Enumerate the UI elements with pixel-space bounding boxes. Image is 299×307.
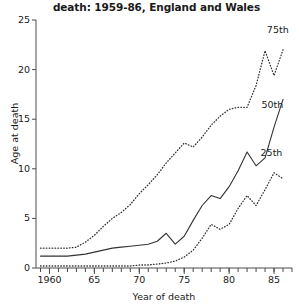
plot-area	[0, 0, 299, 307]
series-line-25th	[40, 173, 283, 266]
x-tick-label: 80	[223, 275, 235, 285]
axes	[32, 20, 292, 274]
y-tick-label: 5	[8, 213, 30, 223]
x-tick-label: 75	[178, 275, 190, 285]
y-tick-label: 0	[8, 263, 30, 273]
x-tick-label: 85	[268, 275, 280, 285]
series-label-75th: 75th	[267, 25, 289, 35]
y-tick-label: 10	[8, 164, 30, 174]
series-label-25th: 25th	[261, 148, 283, 158]
x-tick-label: 70	[133, 275, 145, 285]
y-tick-label: 15	[8, 114, 30, 124]
series-line-50th	[40, 99, 283, 256]
y-tick-label: 20	[8, 65, 30, 75]
x-tick-label: 1960	[37, 275, 61, 285]
x-tick-label: 65	[88, 275, 100, 285]
chart-container: death: 1959-86, England and Wales Age at…	[0, 0, 299, 307]
series-line-75th	[40, 50, 283, 248]
y-tick-label: 25	[8, 15, 30, 25]
series-label-50th: 50th	[261, 100, 283, 110]
data-series	[40, 50, 283, 266]
